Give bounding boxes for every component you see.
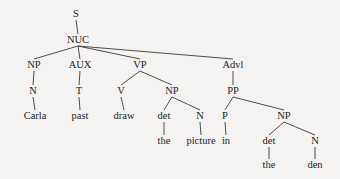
- node-p: P: [222, 110, 228, 121]
- edge-v-draw: [121, 97, 124, 110]
- edge-pp-p: [225, 97, 233, 110]
- edge-np2-det1: [164, 97, 172, 110]
- node-np3: NP: [277, 110, 291, 121]
- node-den: den: [307, 159, 323, 170]
- node-nuc: NUC: [67, 34, 89, 45]
- edge-p-in: [225, 122, 226, 135]
- edge-np2-n2: [172, 97, 200, 110]
- node-draw: draw: [114, 110, 135, 121]
- node-the2: the: [263, 159, 276, 170]
- node-the1: the: [158, 135, 171, 146]
- node-in: in: [222, 135, 231, 146]
- edge-np1-n1: [33, 71, 34, 85]
- edge-aux-t: [79, 71, 80, 85]
- edge-n1-carla: [33, 97, 35, 110]
- node-v: V: [117, 85, 125, 96]
- tree-svg: SNUCNPAUXVPAdvlNTVNPPPCarlapastdrawdetNP…: [0, 0, 340, 179]
- syntax-tree-diagram: SNUCNPAUXVPAdvlNTVNPPPCarlapastdrawdetNP…: [0, 0, 340, 179]
- node-t: T: [76, 85, 83, 96]
- edge-np3-det2: [269, 122, 284, 135]
- edge-nuc-aux: [78, 46, 80, 59]
- node-n2: N: [196, 110, 204, 121]
- edge-vp-np2: [140, 71, 172, 85]
- node-np1: NP: [27, 59, 41, 70]
- node-s: S: [73, 8, 79, 19]
- node-past: past: [72, 110, 89, 121]
- node-det1: det: [158, 110, 171, 121]
- node-vp: VP: [133, 59, 147, 70]
- edge-s-nuc: [76, 20, 78, 34]
- edge-np3-n3: [284, 122, 315, 135]
- tree-labels: SNUCNPAUXVPAdvlNTVNPPPCarlapastdrawdetNP…: [24, 8, 324, 170]
- edge-n2-picture: [200, 122, 201, 135]
- node-np2: NP: [165, 85, 179, 96]
- edge-vp-v: [121, 71, 140, 85]
- edge-nuc-advl: [78, 46, 233, 59]
- node-pp: PP: [227, 85, 239, 96]
- node-picture: picture: [186, 135, 215, 146]
- node-n3: N: [311, 135, 319, 146]
- node-n1: N: [29, 85, 37, 96]
- edge-nuc-vp: [78, 46, 140, 59]
- edge-nuc-np1: [34, 46, 78, 59]
- node-advl: Advl: [223, 59, 244, 70]
- edge-t-past: [79, 97, 80, 110]
- node-carla: Carla: [24, 110, 47, 121]
- node-det2: det: [263, 135, 276, 146]
- node-aux: AUX: [69, 59, 92, 70]
- edge-pp-np3: [233, 97, 284, 110]
